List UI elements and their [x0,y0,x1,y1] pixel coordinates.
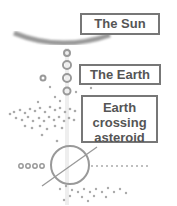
asteroid-label-line-1: Earth [83,100,156,115]
asteroid-label-line-2: crossing [83,115,156,130]
label-the-earth: The Earth [79,64,161,85]
asteroid-cloud [9,86,93,143]
crossing-diagram [19,146,148,202]
asteroid-label-line-3: asteroid [83,130,156,145]
label-the-sun: The Sun [80,13,160,35]
label-earth-crossing-asteroid: Earth crossing asteroid [81,95,158,143]
